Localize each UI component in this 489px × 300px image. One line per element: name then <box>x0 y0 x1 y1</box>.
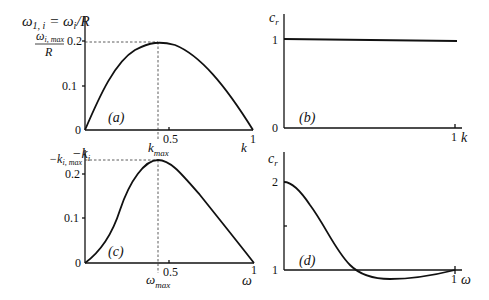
panel-d-tick-2: 2 <box>272 175 278 189</box>
panel-b-tick-1: 1 <box>272 33 278 47</box>
panel-a-label: (a) <box>108 110 125 126</box>
panel-a-ylabel: ω1, i = ωi/R <box>22 13 90 31</box>
panel-a-tick-0.2: 0.2 <box>67 34 82 48</box>
panel-a-tick-0: 0 <box>75 123 81 137</box>
panel-c-xlabel: ω <box>242 273 252 288</box>
panel-a-xlabel: k <box>241 140 247 155</box>
panel-b-curve <box>284 39 457 41</box>
panel-a-ann-den: R <box>44 45 53 59</box>
panel-a: ω1, i = ωi/R ωi, max R 0.2 0.1 0 0.5 1 k… <box>22 13 256 158</box>
panel-c-label: (c) <box>108 244 124 260</box>
panel-c-tick-0.2: 0.2 <box>65 167 80 181</box>
panel-c-tick-1: 1 <box>251 263 257 277</box>
panel-a-tick-1: 1 <box>250 132 256 146</box>
panel-c-tick-0.1: 0.1 <box>64 211 79 225</box>
panel-d-xlabel: ω <box>461 272 471 287</box>
panel-a-tick-0.5: 0.5 <box>163 132 178 146</box>
panel-a-ann-num: ωi, max <box>36 29 64 44</box>
panel-d-label: (d) <box>299 253 316 269</box>
panel-c-tick-0: 0 <box>75 256 81 270</box>
panel-d: cr 2 1 1 ω (d) <box>268 151 471 287</box>
panel-b-xtick-1: 1 <box>451 130 457 144</box>
panel-a-tick-0.1: 0.1 <box>62 79 77 93</box>
panel-c: −ki −ki, max 0.2 0.1 0 0.5 1 ωmax ω (c) <box>49 146 257 290</box>
panel-b-tick-0: 0 <box>272 121 278 135</box>
panel-d-tick-1: 1 <box>272 263 278 277</box>
panel-d-ylabel: cr <box>268 151 278 168</box>
panel-d-xtick-1: 1 <box>451 272 457 286</box>
panel-b: cr 1 0 1 k (b) <box>269 10 468 145</box>
panel-b-label: (b) <box>299 110 316 126</box>
panel-b-xlabel: k <box>461 130 468 145</box>
panel-c-tick-0.5: 0.5 <box>163 265 178 279</box>
panel-b-ylabel: cr <box>269 10 279 27</box>
figure: ω1, i = ωi/R ωi, max R 0.2 0.1 0 0.5 1 k… <box>0 0 489 300</box>
